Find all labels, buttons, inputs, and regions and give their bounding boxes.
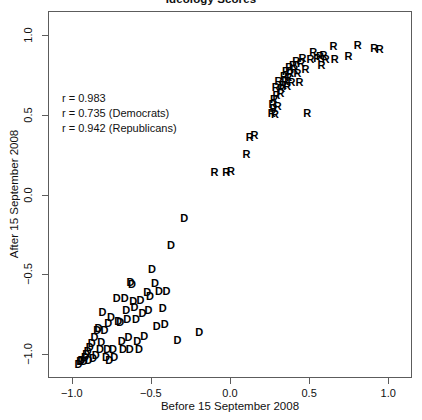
y-axis-tick-label: 0.5 (22, 107, 34, 122)
x-axis-tick-label: −1.0 (61, 387, 83, 399)
y-axis-tick-label: −0.5 (22, 263, 34, 285)
data-point-republicans: R (250, 129, 258, 140)
data-point-democrats: D (162, 285, 170, 296)
data-point-democrats: D (174, 334, 182, 345)
correlation-annotation: r = 0.983 r = 0.735 (Democrats) r = 0.94… (62, 91, 177, 136)
y-axis-tick-label: 1.0 (22, 27, 34, 42)
x-axis-tick-label: −0.5 (140, 387, 162, 399)
y-axis-tick (42, 274, 48, 275)
x-axis-tick-label: 1.0 (381, 387, 396, 399)
data-point-democrats: D (195, 327, 203, 338)
data-point-democrats: D (159, 302, 167, 313)
data-point-republicans: R (344, 51, 352, 62)
data-point-democrats: D (135, 344, 143, 355)
data-point-republicans: R (303, 107, 311, 118)
y-axis-tick-label: −1.0 (22, 343, 34, 365)
x-axis-label: Before 15 September 2008 (48, 400, 412, 412)
data-point-republicans: R (243, 148, 251, 159)
data-point-democrats: D (140, 330, 148, 341)
x-axis-tick-label: 0.0 (222, 387, 237, 399)
y-axis-tick (42, 35, 48, 36)
data-point-republicans: R (295, 76, 303, 87)
data-point-democrats: D (167, 239, 175, 250)
y-axis-tick (42, 195, 48, 196)
y-axis-tick-label: 0.0 (22, 187, 34, 202)
data-point-democrats: D (124, 332, 132, 343)
x-axis-tick-label: 0.5 (301, 387, 316, 399)
data-point-democrats: D (128, 279, 136, 290)
data-point-republicans: R (299, 52, 307, 63)
data-point-republicans: R (274, 100, 282, 111)
data-point-democrats: D (113, 292, 121, 303)
annotation-line-overall: r = 0.983 (62, 91, 177, 106)
plot-area: DDDDDDDDDDDDDDDDDDDDDDDDDDDDDDDDDDDDDDDD… (48, 11, 412, 378)
y-axis-tick (42, 354, 48, 355)
annotation-line-republicans: r = 0.942 (Republicans) (62, 121, 177, 136)
data-point-democrats: D (153, 321, 161, 332)
data-point-democrats: D (180, 213, 188, 224)
chart-title: Ideology Scores (0, 0, 422, 5)
annotation-line-democrats: r = 0.735 (Democrats) (62, 106, 177, 121)
data-point-republicans: R (331, 54, 339, 65)
x-axis-tick (72, 378, 73, 384)
data-point-republicans: R (330, 40, 338, 51)
data-point-democrats: D (123, 314, 131, 325)
data-point-democrats: D (144, 304, 152, 315)
data-point-republicans: R (301, 64, 309, 75)
data-point-democrats: D (99, 306, 107, 317)
data-point-republicans: R (210, 166, 218, 177)
y-axis-label: After 15 September 2008 (8, 130, 20, 259)
data-point-republicans: R (376, 44, 384, 55)
data-point-democrats: D (148, 264, 156, 275)
y-axis-tick (42, 115, 48, 116)
data-point-republicans: R (322, 54, 330, 65)
x-axis-tick (230, 378, 231, 384)
data-point-democrats: D (121, 293, 129, 304)
data-point-democrats: D (110, 351, 118, 362)
data-point-republicans: R (354, 39, 362, 50)
data-point-democrats: D (161, 318, 169, 329)
x-axis-tick (388, 378, 389, 384)
scatter-plot-figure: Ideology Scores DDDDDDDDDDDDDDDDDDDDDDDD… (0, 0, 422, 420)
data-point-republicans: R (227, 165, 235, 176)
data-point-democrats: D (146, 291, 154, 302)
x-axis-tick (309, 378, 310, 384)
x-axis-tick (151, 378, 152, 384)
